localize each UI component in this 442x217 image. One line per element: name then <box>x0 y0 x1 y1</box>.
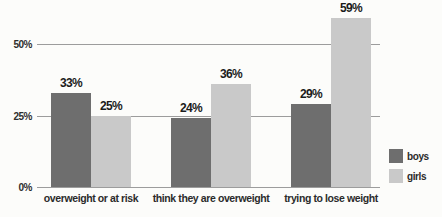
legend-item-girls: girls <box>389 169 426 183</box>
y-axis-tick-label: 50% <box>0 39 32 50</box>
bar-girls <box>91 116 131 187</box>
legend-swatch-girls <box>389 169 403 183</box>
bar-boys <box>171 118 211 187</box>
bar-boys <box>291 104 331 187</box>
gridline-50% <box>37 44 380 45</box>
legend-swatch-boys <box>389 149 403 163</box>
gridline-0% <box>37 187 380 188</box>
bar-girls <box>211 84 251 187</box>
bar-value-label: 59% <box>321 2 381 15</box>
bar-chart: 0%25%50%33%25%overweight or at risk24%36… <box>0 0 442 217</box>
legend-item-boys: boys <box>389 149 429 163</box>
bar-value-label: 33% <box>41 77 101 90</box>
legend-label-boys: boys <box>407 151 429 162</box>
bar-value-label: 25% <box>81 100 141 113</box>
category-label: trying to lose weight <box>251 192 411 204</box>
y-axis-tick-label: 25% <box>0 111 32 122</box>
bar-girls <box>331 18 371 187</box>
legend-label-girls: girls <box>407 171 426 182</box>
bar-value-label: 36% <box>201 68 261 81</box>
